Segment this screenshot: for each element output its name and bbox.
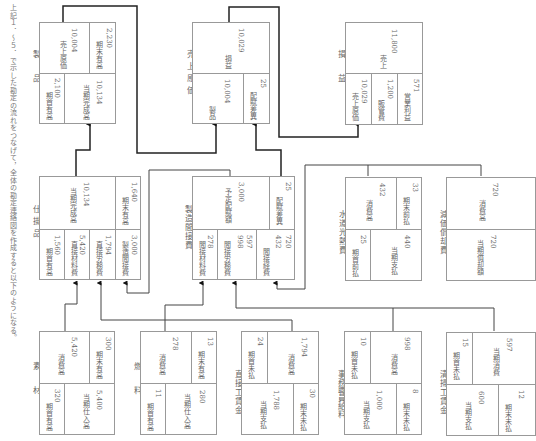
sk-dm-cell: 直接材料費 5,420 [65,229,90,280]
sozai-end-label: 期末有高 [94,351,104,379]
sk-beg-cell: 期首有高 1,560 [40,229,65,280]
nenryo-end-label: 期末有高 [196,351,206,379]
nenryo-cons-label: 消費高 [157,354,167,375]
cc-cons-label: 消費高 [286,354,296,375]
sk-dm-value: 5,420 [78,235,86,255]
gs-dep-cell: 当期償却額 720 [447,229,536,281]
sd-prepaid-label: 期首前払 [350,249,360,277]
sc-paid-value: 600 [477,391,485,404]
jk-paid-cell: 当期支払 1,000 [345,383,397,435]
sozai-beg-value: 320 [53,389,61,402]
jk-paid-label: 当期支払 [361,401,371,429]
soneki-op-value: 571 [412,79,420,92]
sz-im-value: 278 [206,235,214,248]
sz-applied-value: 3,000 [237,182,245,202]
jk-end-label: 期末未払 [401,403,411,431]
seihin-beg-cell: 期首有高 2,100 [40,73,65,124]
sz-applied-cell: 予定配賦額 3,000 [193,177,270,229]
sd-paid-label: 当期支払 [389,247,399,275]
sz-il-value-b: 597 [245,235,253,248]
sc-cons-value: 597 [505,338,513,351]
ug-var-value: 25 [259,79,267,88]
uriage-genka-account: 製品 10,004 配賦差異 25 損益 10,029 [192,22,270,124]
soneki-sga-cell: 販管費 1,200 [372,73,398,125]
sz-im-cell: 間接材料費 278 [193,229,218,280]
seihin-end-label: 期末有高 [94,41,104,69]
suidou-account: 期首前払 25 当期支払 440 消費高 432 期末前払 33 [345,177,422,281]
sc-beg-cell: 期首未払 15 [447,333,473,384]
soneki-sales-label: 売上 [378,55,388,69]
cc-cons-value: 1,794 [300,337,308,357]
soneki-sga-label: 販管費 [376,100,386,121]
gs-cons-label: 消費高 [477,200,487,221]
cc-end-label: 期末未払 [298,403,308,431]
sozai-pur-value: 5,400 [95,390,103,410]
sc-end-label: 期末未払 [503,404,513,432]
jimu-kyuryo-account: 当期支払 1,000 期末未払 8 期首未払 10 消費高 998 [344,331,422,435]
cc-paid-cell: 当期支払 1,788 [242,383,294,435]
sc-paid-cell: 当期支払 600 [447,384,499,436]
seihin-cogs-cell: 売上原価 10,004 [40,23,90,73]
seizo-kansetsu-account: 間接材料費 278 間接労務費 998 597 間接経費 432 720 予定配… [192,176,295,280]
sz-var-label: 配賦差異 [274,197,284,225]
sc-end-value: 12 [517,390,525,399]
ug-seihin-cell: 製品 10,004 [193,73,244,124]
sk-oh-value: 3,000 [130,235,138,255]
gs-dep-value: 720 [489,235,497,248]
seihin-beg-value: 2,100 [53,78,61,98]
cc-end-value: 30 [308,389,316,398]
cc-paid-label: 当期支払 [258,401,268,429]
sk-end-label: 期末有高 [120,197,130,225]
sozai-pur-cell: 当期仕入高 5,400 [65,383,115,435]
nenryo-beg-value: 11 [154,389,162,398]
nenryo-pur-value: 280 [198,390,206,403]
sz-il-label: 間接労務費 [222,241,232,276]
sozai-beg-label: 期首有高 [44,403,54,431]
seihin-comp-value: 10,134 [95,80,103,105]
ug-var-cell: 配賦差異 25 [244,73,270,124]
sd-cons-label: 消費高 [364,200,374,221]
sk-dl-label: 直接労務費 [94,241,104,276]
jk-cons-cell: 消費高 998 [371,332,422,383]
sz-applied-label: 予定配賦額 [223,188,233,223]
soneki-op-cell: 営業利益 571 [398,73,423,125]
nenryo-account: 期首有高 11 当期仕入高 280 消費高 278 期末有高 13 [140,331,217,435]
genka-shokyaku-account: 当期償却額 720 消費高 720 [446,177,536,281]
sc-cons-label: 当期消費 [491,348,501,376]
soneki-sga-value: 1,200 [386,79,394,99]
nenryo-cons-value: 278 [171,337,179,350]
sd-prepaid-cell: 期首前払 25 [346,229,371,281]
sozai-cons-value: 5,420 [70,337,78,357]
nenryo-end-cell: 期末有高 13 [192,332,217,383]
sz-ie-label: 間接経費 [261,248,271,276]
sk-oh-cell: 製造間接費 3,000 [116,229,141,280]
seihin-end-value: 2,230 [105,28,113,48]
seisou-chingin-account: 当期支払 600 期末未払 12 期首未払 15 当期消費 597 [446,332,536,436]
sd-paid-cell: 当期支払 440 [371,229,422,281]
cc-beg-value: 24 [256,337,264,346]
cc-beg-label: 期首未払 [246,351,256,379]
soneki-sales-cell: 売上 11,800 [346,23,423,73]
seihin-comp-cell: 当期完成高 10,134 [65,73,116,124]
sd-paid-value: 440 [403,235,411,248]
soneki-op-label: 営業利益 [402,93,412,121]
soneki-cogs-cell: 売上原価 10,029 [346,73,372,125]
sd-unpaid-value: 33 [411,183,419,192]
jk-cons-label: 消費高 [389,354,399,375]
nenryo-pur-label: 当期仕入高 [182,394,192,429]
sz-il-cell: 間接労務費 998 597 [218,229,257,280]
ug-pl-label: 損益 [223,55,233,69]
sozai-account: 期首有高 320 当期仕入高 5,400 消費高 5,420 期末有高 300 [39,331,115,435]
sc-cons-cell: 当期消費 597 [473,333,536,384]
ug-pl-value: 10,029 [237,28,245,53]
cc-cons-cell: 消費高 1,794 [268,332,319,383]
seihin-cogs-value: 10,004 [70,28,78,53]
seihin-cogs-label: 売上原価 [58,41,68,69]
sk-comp-value: 10,134 [82,182,90,207]
ug-seihin-value: 10,004 [223,79,231,104]
jk-paid-value: 1,000 [375,390,383,410]
sd-cons-value: 432 [378,183,386,196]
gs-dep-label: 当期償却額 [475,240,485,275]
soneki-account: 売上原価 10,029 販管費 1,200 営業利益 571 売上 11,800 [345,22,423,125]
sk-end-value: 1,640 [130,182,138,202]
